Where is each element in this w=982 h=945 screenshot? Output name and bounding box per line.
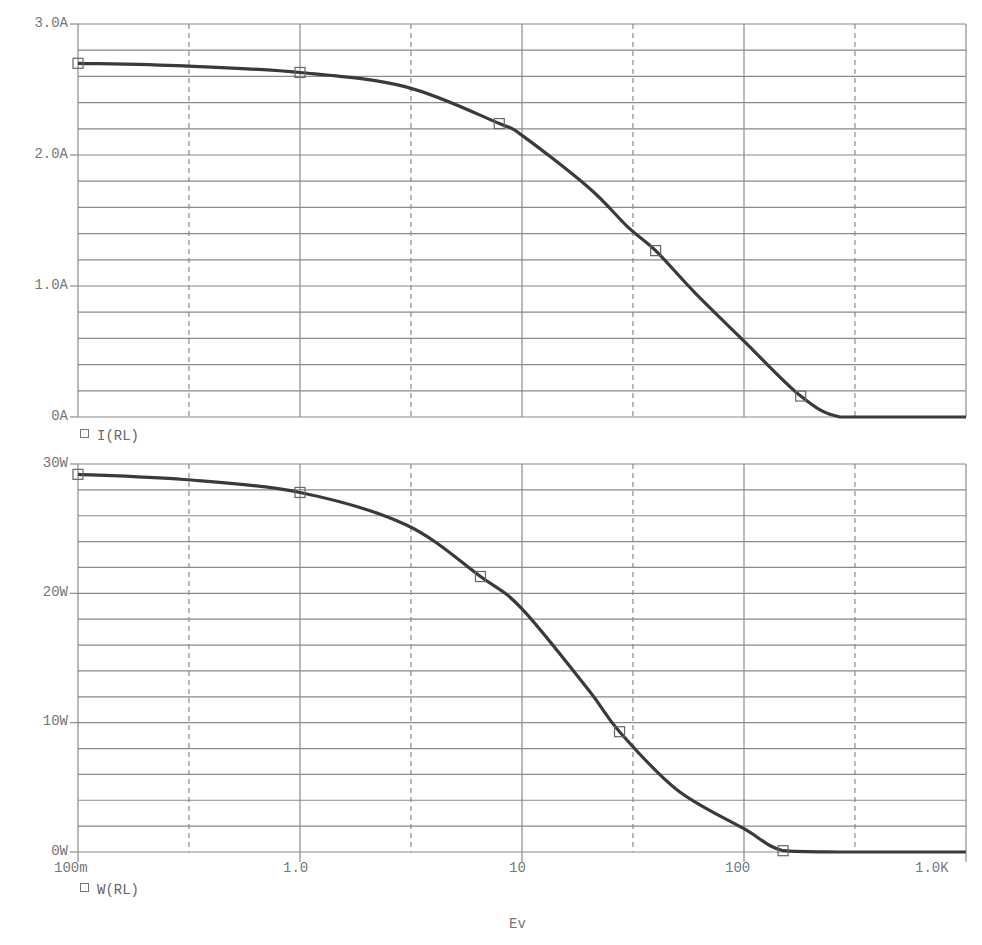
top-ytick-3: 3.0A — [0, 15, 68, 31]
legend-square-icon — [80, 883, 89, 892]
legend-top: I(RL) — [80, 428, 139, 444]
top-ytick-1: 1.0A — [0, 277, 68, 293]
top-ytick-0: 0A — [0, 408, 68, 424]
xtick-1k: 1.0K — [915, 860, 949, 876]
legend-square-icon — [80, 429, 89, 438]
x-axis-label: Ev — [509, 916, 526, 932]
xtick-10: 10 — [509, 860, 526, 876]
bottom-ytick-20: 20W — [0, 584, 68, 600]
top-ytick-2: 2.0A — [0, 146, 68, 162]
xtick-1: 1.0 — [283, 860, 308, 876]
xtick-100m: 100m — [54, 860, 88, 876]
legend-bottom: W(RL) — [80, 882, 139, 898]
plot-canvas — [0, 0, 982, 945]
bottom-ytick-30: 30W — [0, 455, 68, 471]
bottom-ytick-10: 10W — [0, 713, 68, 729]
legend-label-irl: I(RL) — [97, 428, 139, 444]
bottom-ytick-0: 0W — [0, 843, 68, 859]
xtick-100: 100 — [725, 860, 750, 876]
legend-label-wrl: W(RL) — [97, 882, 139, 898]
